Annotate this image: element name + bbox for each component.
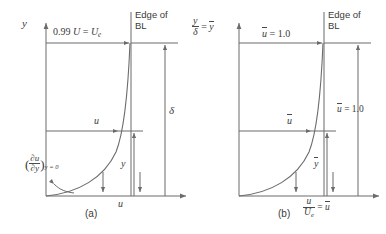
panel-b-right-ubar-label: u = 1.0: [337, 104, 364, 114]
panel-b-freestream-value: = 1.0: [267, 28, 290, 39]
panel-b-x-axis-bar: u: [325, 202, 330, 212]
panel-b-edge-line-2: BL: [328, 21, 361, 32]
panel-a-freestream-prefix: 0.99: [53, 26, 73, 37]
panel-a-gradient-fraction: ∂u∂y: [29, 154, 40, 174]
panel-b-x-axis-den-subscript: e: [311, 211, 314, 218]
panel-b-velocity-profile-curve: [239, 43, 323, 196]
panel-b-y-axis-label: yδ = y: [192, 16, 214, 38]
panel-a-caption: (a): [85, 208, 97, 219]
panel-a-edge-of-bl-label: Edge of BL: [135, 10, 168, 31]
panel-a-gradient-denominator: ∂y: [29, 163, 40, 173]
panel-b-ybar-label: y: [314, 158, 318, 169]
panel-b-right-ubar-symbol: u: [337, 104, 342, 114]
panel-b-right-ubar-value: = 1.0: [342, 104, 364, 114]
panel-a-y-axis-label: y: [22, 17, 27, 29]
panel-a-freestream-ue-subscript: e: [98, 31, 101, 39]
panel-b-freestream-label: u = 1.0: [262, 28, 290, 39]
panel-b-x-axis-den-u: U: [304, 207, 311, 217]
panel-b-y-axis-bar: y: [209, 21, 213, 32]
panel-a-gradient-numerator: ∂u: [29, 154, 40, 163]
panel-b-y-axis-numerator: y: [192, 16, 199, 26]
panel-a-gradient-subscript: y = 0: [45, 163, 59, 170]
panel-b-edge-of-bl-label: Edge of BL: [328, 10, 361, 31]
panel-b-caption: (b): [278, 208, 290, 219]
panel-b-x-axis-denominator: Ue: [303, 207, 315, 220]
panel-b-x-axis-equals: =: [315, 202, 325, 212]
panel-a-wall-gradient-label: (∂u∂y)y = 0: [25, 154, 58, 174]
panel-a-edge-line-2: BL: [135, 21, 168, 32]
panel-b-edge-line-1: Edge of: [328, 10, 361, 21]
panel-a-u-label: u: [94, 115, 99, 126]
panel-a-y-height-label: y: [121, 158, 125, 169]
panel-b-freestream-ubar: u: [262, 28, 267, 39]
panel-b-ybar-symbol: y: [314, 158, 318, 169]
panel-b-ubar-label: u: [287, 115, 292, 126]
panel-a-velocity-profile-curve: [46, 43, 130, 196]
panel-b-x-axis-fraction: uUe: [303, 197, 315, 220]
boundary-layer-figure: y 0.99 U = Ue Edge of BL u y δ (∂u∂y)y =…: [0, 0, 386, 234]
panel-b-y-axis-equals: =: [199, 21, 210, 32]
panel-b-x-axis-numerator: u: [303, 197, 315, 207]
panel-b-y-axis-fraction: yδ: [192, 16, 199, 38]
panel-a-edge-line-1: Edge of: [135, 10, 168, 21]
panel-b-ubar-symbol: u: [287, 115, 292, 126]
panel-b-x-axis-label: uUe = u: [303, 197, 330, 220]
panel-a-freestream-equals: =: [80, 26, 91, 37]
panel-b-y-axis-denominator: δ: [192, 26, 199, 38]
panel-a-x-axis-label: u: [118, 198, 123, 209]
panel-a-delta-label: δ: [169, 104, 174, 116]
panel-a-wall-gradient-leader: [54, 184, 74, 193]
panel-a-freestream-label: 0.99 U = Ue: [53, 26, 101, 39]
